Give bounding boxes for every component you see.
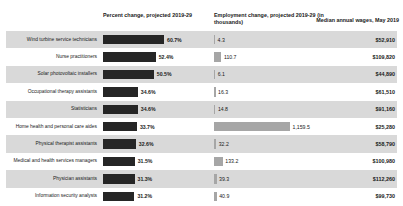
occupation-label: Information security analysts bbox=[8, 188, 99, 205]
chart-rows: Wind turbine service technicians60.7%4.3… bbox=[0, 31, 403, 205]
employment-change-bar bbox=[214, 87, 216, 96]
percent-change-cell: 32.6% bbox=[103, 135, 203, 152]
employment-change-cell: 110.7 bbox=[214, 48, 330, 65]
percent-change-cell: 31.3% bbox=[103, 170, 203, 187]
median-wage-value: $91,160 bbox=[330, 101, 395, 118]
employment-change-bar bbox=[214, 139, 216, 148]
table-row: Solar photovoltaic installers50.5%6.1$44… bbox=[0, 66, 403, 83]
percent-change-bar bbox=[103, 122, 137, 131]
column-header-employment-change: Employment change, projected 2019-29 (in… bbox=[214, 12, 324, 26]
employment-change-bar bbox=[214, 70, 215, 79]
table-row: Wind turbine service technicians60.7%4.3… bbox=[0, 31, 403, 48]
employment-change-cell: 1,159.5 bbox=[214, 118, 330, 135]
percent-change-cell: 52.4% bbox=[103, 48, 203, 65]
median-wage-value: $52,910 bbox=[330, 31, 395, 48]
median-wage-value: $58,790 bbox=[330, 135, 395, 152]
table-row: Occupational therapy assistants34.6%16.3… bbox=[0, 83, 403, 100]
median-wage-value: $99,730 bbox=[330, 188, 395, 205]
employment-change-value: 133.2 bbox=[225, 158, 238, 164]
percent-change-value: 52.4% bbox=[159, 54, 174, 60]
occupation-label: Medical and health services managers bbox=[8, 153, 99, 170]
employment-change-bar bbox=[214, 174, 217, 183]
percent-change-cell: 31.5% bbox=[103, 153, 203, 170]
occupation-label: Home health and personal care aides bbox=[8, 118, 99, 135]
percent-change-value: 31.2% bbox=[137, 193, 152, 199]
employment-change-bar bbox=[214, 105, 215, 114]
percent-change-bar bbox=[103, 139, 136, 148]
percent-change-value: 34.6% bbox=[141, 106, 156, 112]
employment-change-value: 4.3 bbox=[218, 37, 225, 43]
median-wage-value: $44,890 bbox=[330, 66, 395, 83]
median-wage-value: $112,260 bbox=[330, 170, 395, 187]
percent-change-value: 50.5% bbox=[157, 71, 172, 77]
percent-change-value: 34.6% bbox=[141, 89, 156, 95]
percent-change-bar bbox=[103, 192, 134, 201]
employment-change-value: 39.3 bbox=[219, 176, 229, 182]
occupation-label: Physician assistants bbox=[8, 170, 99, 187]
percent-change-value: 31.3% bbox=[138, 176, 153, 182]
occupation-label: Solar photovoltaic installers bbox=[8, 66, 99, 83]
employment-change-value: 32.2 bbox=[219, 141, 229, 147]
percent-change-cell: 33.7% bbox=[103, 118, 203, 135]
employment-change-cell: 6.1 bbox=[214, 66, 330, 83]
employment-change-value: 40.9 bbox=[219, 193, 229, 199]
employment-change-value: 16.3 bbox=[218, 89, 228, 95]
percent-change-value: 60.7% bbox=[167, 37, 182, 43]
percent-change-value: 32.6% bbox=[139, 141, 154, 147]
occupation-label: Physical therapist assistants bbox=[8, 135, 99, 152]
table-row: Nurse practitioners52.4%110.7$109,820 bbox=[0, 48, 403, 65]
percent-change-bar bbox=[103, 87, 138, 96]
employment-change-cell: 32.2 bbox=[214, 135, 330, 152]
employment-change-bar bbox=[214, 52, 221, 61]
percent-change-bar bbox=[103, 70, 154, 79]
employment-change-value: 14.8 bbox=[218, 106, 228, 112]
occupation-label: Wind turbine service technicians bbox=[8, 31, 99, 48]
percent-change-bar bbox=[103, 105, 138, 114]
percent-change-bar bbox=[103, 52, 156, 61]
median-wage-value: $100,980 bbox=[330, 153, 395, 170]
median-wage-value: $61,510 bbox=[330, 83, 395, 100]
table-row: Statisticians34.6%14.8$91,160 bbox=[0, 101, 403, 118]
percent-change-bar bbox=[103, 174, 135, 183]
employment-change-bar bbox=[214, 192, 217, 201]
percent-change-value: 33.7% bbox=[140, 124, 155, 130]
employment-change-cell: 16.3 bbox=[214, 83, 330, 100]
table-row: Medical and health services managers31.5… bbox=[0, 153, 403, 170]
table-row: Information security analysts31.2%40.9$9… bbox=[0, 188, 403, 205]
employment-change-cell: 40.9 bbox=[214, 188, 330, 205]
employment-change-cell: 14.8 bbox=[214, 101, 330, 118]
employment-change-cell: 39.3 bbox=[214, 170, 330, 187]
employment-change-value: 6.1 bbox=[218, 71, 225, 77]
column-header-percent-change: Percent change, projected 2019-29 bbox=[103, 12, 203, 19]
percent-change-bar bbox=[103, 35, 164, 44]
employment-change-cell: 4.3 bbox=[214, 31, 330, 48]
employment-change-bar bbox=[214, 35, 215, 44]
employment-change-cell: 133.2 bbox=[214, 153, 330, 170]
employment-change-bar bbox=[214, 122, 290, 131]
fastest-growing-occupations-chart: Percent change, projected 2019-29 Employ… bbox=[0, 0, 403, 206]
employment-change-bar bbox=[214, 157, 223, 166]
occupation-label: Nurse practitioners bbox=[8, 48, 99, 65]
employment-change-value: 1,159.5 bbox=[293, 124, 310, 130]
table-row: Home health and personal care aides33.7%… bbox=[0, 118, 403, 135]
percent-change-cell: 34.6% bbox=[103, 101, 203, 118]
occupation-label: Occupational therapy assistants bbox=[8, 83, 99, 100]
percent-change-cell: 60.7% bbox=[103, 31, 203, 48]
table-header: Percent change, projected 2019-29 Employ… bbox=[0, 0, 403, 31]
percent-change-cell: 50.5% bbox=[103, 66, 203, 83]
median-wage-value: $109,820 bbox=[330, 48, 395, 65]
percent-change-value: 31.5% bbox=[138, 158, 153, 164]
table-row: Physician assistants31.3%39.3$112,260 bbox=[0, 170, 403, 187]
table-row: Physical therapist assistants32.6%32.2$5… bbox=[0, 135, 403, 152]
percent-change-cell: 34.6% bbox=[103, 83, 203, 100]
employment-change-value: 110.7 bbox=[224, 54, 237, 60]
occupation-label: Statisticians bbox=[8, 101, 99, 118]
percent-change-bar bbox=[103, 157, 135, 166]
column-header-median-wage: Median annual wages, May 2019 bbox=[330, 12, 399, 29]
median-wage-value: $25,280 bbox=[330, 118, 395, 135]
percent-change-cell: 31.2% bbox=[103, 188, 203, 205]
